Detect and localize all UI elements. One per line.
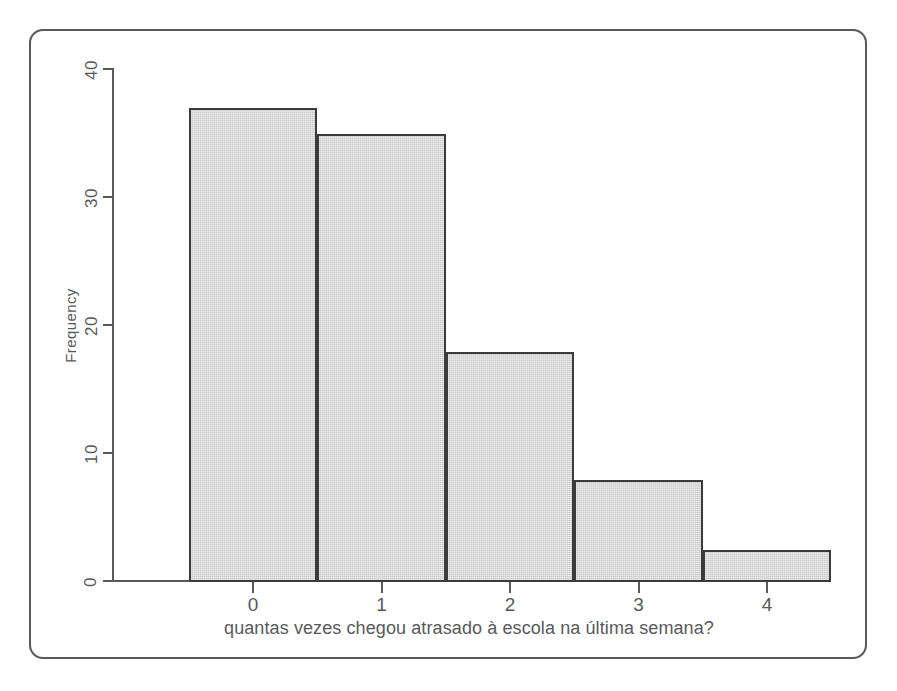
y-tick-mark-10 [103,452,112,454]
x-tick-label-3: 3 [609,594,669,616]
y-tick-label-10: 10 [82,436,102,472]
y-axis-spine [112,68,114,582]
x-tick-label-0: 0 [223,594,283,616]
y-axis-label: Frequency [62,256,79,396]
histogram-bar-1 [317,134,446,582]
y-tick-mark-30 [103,196,112,198]
y-tick-label-20: 20 [82,308,102,344]
x-tick-label-4: 4 [737,594,797,616]
y-tick-label-0: 0 [81,567,101,597]
y-tick-label-30: 30 [82,180,102,216]
x-axis-label: quantas vezes chegou atrasado à escola n… [112,618,826,639]
histogram-bar-3 [574,480,703,582]
histogram-bar-4 [703,550,832,582]
x-tick-mark-2 [509,582,511,593]
x-tick-label-1: 1 [352,594,412,616]
x-tick-mark-4 [766,582,768,593]
y-tick-mark-0 [103,580,112,582]
plot-area: Frequency 0 10 20 30 40 0 1 2 3 4 [0,0,897,691]
figure-container: Frequency 0 10 20 30 40 0 1 2 3 4 [0,0,897,691]
y-tick-label-40: 40 [82,52,102,88]
x-tick-label-2: 2 [480,594,540,616]
y-tick-mark-40 [103,68,112,70]
x-tick-mark-3 [638,582,640,593]
x-tick-mark-1 [381,582,383,593]
histogram-bar-2 [446,352,575,582]
y-tick-mark-20 [103,324,112,326]
histogram-bar-0 [189,108,318,582]
x-tick-mark-0 [252,582,254,593]
